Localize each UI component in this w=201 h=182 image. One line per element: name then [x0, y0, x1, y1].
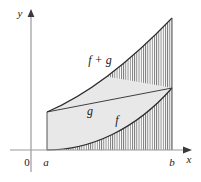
- area-between-curves-diagram: y x 0 a b f + g g f: [0, 0, 201, 182]
- upper-bound-label: b: [169, 156, 175, 168]
- f-plus-g-label: f + g: [88, 53, 111, 67]
- x-axis-label: x: [186, 153, 192, 165]
- g-label: g: [87, 104, 93, 118]
- lower-bound-label: a: [43, 156, 49, 168]
- y-axis-label: y: [17, 7, 23, 19]
- y-axis-arrow-icon: [28, 9, 35, 17]
- figure-canvas: y x 0 a b f + g g f: [0, 0, 201, 182]
- origin-label: 0: [24, 156, 30, 168]
